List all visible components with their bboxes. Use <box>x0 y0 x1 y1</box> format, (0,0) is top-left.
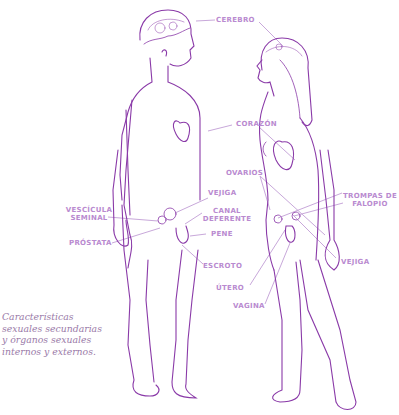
label-trompas-line2: FALOPIO <box>342 200 398 208</box>
label-prostata: PRÓSTATA <box>69 239 112 247</box>
anatomy-diagram: CEREBRO CORAZÓN OVARIOS VEJIGA VESCÍCULA… <box>0 0 399 415</box>
label-vesicula-line1: VESCÍCULA <box>64 206 114 214</box>
caption-line: sexuales secundarias <box>2 323 132 335</box>
label-corazon: CORAZÓN <box>236 120 277 128</box>
female-figure <box>257 38 356 410</box>
caption-line: internos y externos. <box>2 346 132 358</box>
label-cerebro: CEREBRO <box>216 16 255 24</box>
figure-caption: Características sexuales secundarias y ó… <box>2 311 132 357</box>
label-trompas-de-falopio: TROMPAS DE FALOPIO <box>342 192 398 208</box>
label-vesicula-line2: SEMINAL <box>64 214 114 222</box>
label-utero: ÚTERO <box>216 284 244 292</box>
label-ovarios: OVARIOS <box>226 169 263 177</box>
label-trompas-line1: TROMPAS DE <box>342 192 398 200</box>
label-pene: PENE <box>211 230 233 238</box>
caption-line: y órganos sexuales <box>2 334 132 346</box>
label-canal-line2: DEFERENTE <box>200 215 254 223</box>
label-canal-line1: CANAL <box>200 207 254 215</box>
label-vagina: VAGINA <box>233 302 265 310</box>
label-canal-deferente: CANAL DEFERENTE <box>200 207 254 223</box>
label-vejiga-female: VEJIGA <box>341 258 369 266</box>
label-vejiga-male: VEJIGA <box>208 189 236 197</box>
caption-line: Características <box>2 311 132 323</box>
label-vesicula-seminal: VESCÍCULA SEMINAL <box>64 206 114 222</box>
label-escroto: ESCROTO <box>203 262 242 270</box>
